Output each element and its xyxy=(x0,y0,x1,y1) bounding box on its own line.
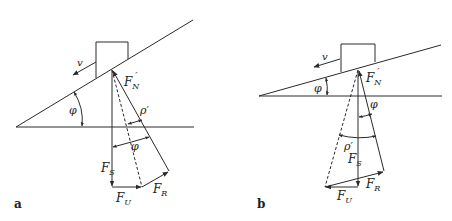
friction-force-label: FR xyxy=(365,177,380,193)
vector-angle-label: φ xyxy=(131,140,139,153)
friction-angle-label: ρ′ xyxy=(139,104,149,117)
panel-b-label: b xyxy=(257,197,265,211)
incline-line xyxy=(259,45,441,96)
friction-force-label: FR xyxy=(152,182,167,198)
panel-a-labels: v FN′ ρ′ φ φ FS FU FR a xyxy=(14,57,167,211)
push-force-label: FU xyxy=(336,189,352,205)
diagram-canvas: v FN′ ρ′ φ φ FS FU FR a v FN′ φ φ ρ′ FS … xyxy=(0,0,452,221)
incline-angle-label: φ xyxy=(314,82,322,95)
vector-angle-label: φ xyxy=(370,98,378,111)
incline-angle-label: φ xyxy=(69,104,77,117)
inclined-plane-force-diagrams: v FN′ ρ′ φ φ FS FU FR a v FN′ φ φ ρ′ FS … xyxy=(0,0,452,221)
velocity-label: v xyxy=(77,57,83,68)
panel-b-labels: v FN′ φ φ ρ′ FS FU FR b xyxy=(257,51,382,211)
resultant-dashed-line xyxy=(325,70,358,187)
weight-force-label: FS xyxy=(347,152,362,168)
normal-force-label: FN′ xyxy=(123,70,140,91)
incline-angle-arc xyxy=(326,78,327,95)
push-force-label: FU xyxy=(115,191,131,207)
panel-a-label: a xyxy=(14,197,22,211)
velocity-label: v xyxy=(322,51,328,62)
friction-angle-arc xyxy=(128,120,142,124)
weight-force-label: FS xyxy=(100,161,115,177)
incline-line xyxy=(16,20,193,127)
normal-force-vector xyxy=(113,71,169,171)
normal-force-label: FN′ xyxy=(365,66,382,87)
